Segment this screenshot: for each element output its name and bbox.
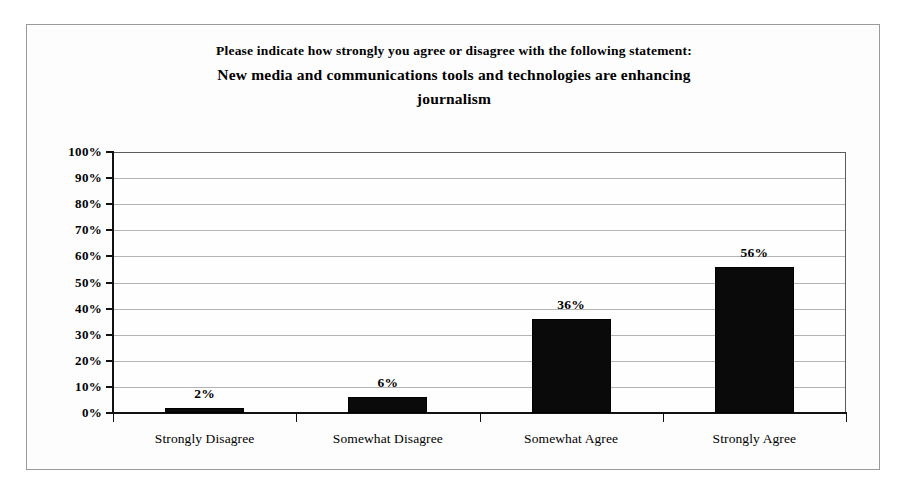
gridline — [113, 178, 846, 179]
chart-title-line-3: journalism — [27, 87, 881, 111]
y-axis-tick-label: 40% — [75, 301, 102, 317]
y-axis-tick — [106, 308, 113, 310]
chart-title-line-1: Please indicate how strongly you agree o… — [27, 39, 881, 63]
y-axis-tick-label: 90% — [75, 170, 102, 186]
chart-title: Please indicate how strongly you agree o… — [27, 39, 881, 111]
x-axis-category-label: Strongly Disagree — [155, 431, 255, 447]
x-axis-tick — [846, 413, 847, 422]
y-axis-tick — [106, 282, 113, 284]
y-axis-tick — [106, 229, 113, 231]
chart-frame: Please indicate how strongly you agree o… — [26, 24, 880, 470]
y-axis-tick-label: 10% — [75, 379, 102, 395]
y-axis-tick-label: 20% — [75, 353, 102, 369]
gridline — [113, 152, 846, 153]
x-axis-tick — [480, 413, 481, 422]
y-axis-tick — [106, 203, 113, 205]
x-axis-category-label: Strongly Agree — [713, 431, 797, 447]
bar-value-label: 56% — [740, 245, 768, 261]
x-axis-tick — [113, 413, 114, 422]
y-axis-tick-label: 80% — [75, 196, 102, 212]
bar-value-label: 2% — [194, 386, 215, 402]
y-axis-tick-label: 0% — [82, 405, 102, 421]
y-axis-tick — [106, 334, 113, 336]
y-axis-tick-label: 60% — [75, 248, 102, 264]
gridline — [113, 256, 846, 257]
bar[interactable] — [165, 408, 244, 413]
y-axis-tick — [106, 386, 113, 388]
y-axis-tick — [106, 255, 113, 257]
y-axis-tick — [106, 360, 113, 362]
gridline — [113, 204, 846, 205]
x-axis-category-label: Somewhat Agree — [524, 431, 618, 447]
x-axis-category-label: Somewhat Disagree — [333, 431, 443, 447]
bar[interactable] — [348, 397, 427, 413]
plot-area: 0%10%20%30%40%50%60%70%80%90%100% 2%6%36… — [113, 152, 846, 413]
y-axis-tick — [106, 177, 113, 179]
y-axis-tick — [106, 412, 113, 414]
x-axis-tick — [296, 413, 297, 422]
y-axis-tick — [106, 151, 113, 153]
bar[interactable] — [715, 267, 794, 413]
bar-value-label: 6% — [377, 375, 398, 391]
gridline — [113, 230, 846, 231]
bar[interactable] — [532, 319, 611, 413]
bar-value-label: 36% — [557, 297, 585, 313]
y-axis-tick-label: 100% — [68, 144, 102, 160]
chart-title-line-2: New media and communications tools and t… — [27, 63, 881, 87]
x-axis-tick — [663, 413, 664, 422]
y-axis-tick-label: 30% — [75, 327, 102, 343]
y-axis-tick-label: 50% — [75, 275, 102, 291]
y-axis-tick-label: 70% — [75, 222, 102, 238]
